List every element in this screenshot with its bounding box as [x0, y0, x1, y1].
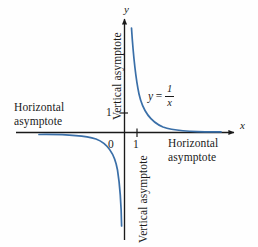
vertical-asymptote-label-top: Vertical asymptote	[111, 32, 125, 120]
curve-branch-positive	[132, 28, 222, 132]
origin-label: 0	[108, 138, 114, 152]
equation-numerator: 1	[165, 84, 174, 95]
horizontal-asymptote-label-left: Horizontal asymptote	[14, 101, 64, 128]
y-axis-label: y	[124, 3, 129, 16]
figure-canvas: y x 1 1 0 Horizontal asymptote Horizonta…	[0, 0, 258, 247]
equation-label: y = 1 x	[148, 84, 174, 108]
x-tick-label-1: 1	[133, 138, 139, 152]
equation-fraction: 1 x	[165, 84, 174, 108]
equation-lhs: y	[148, 90, 153, 102]
vertical-asymptote-label-bottom: Vertical asymptote	[137, 155, 151, 243]
horizontal-asymptote-label-right: Horizontal asymptote	[168, 137, 218, 164]
equation-operator: =	[155, 90, 163, 102]
equation-denominator: x	[165, 98, 174, 109]
x-axis-label: x	[240, 119, 245, 132]
